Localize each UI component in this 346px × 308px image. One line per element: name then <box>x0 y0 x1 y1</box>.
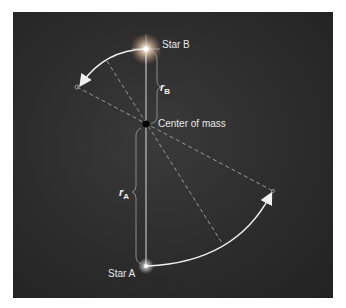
radius-b-label: rB <box>160 81 170 96</box>
star-b <box>144 47 149 52</box>
orbit-arc-a <box>148 196 270 266</box>
radius-a-label: rA <box>119 186 129 201</box>
center-of-mass-dot <box>143 121 150 128</box>
star-b-label: Star B <box>162 39 190 50</box>
dashed-line-outer <box>77 87 273 191</box>
center-of-mass-label: Center of mass <box>158 118 226 129</box>
star-a <box>144 264 148 268</box>
brace-ra <box>132 128 141 264</box>
star-a-label: Star A <box>108 268 135 279</box>
